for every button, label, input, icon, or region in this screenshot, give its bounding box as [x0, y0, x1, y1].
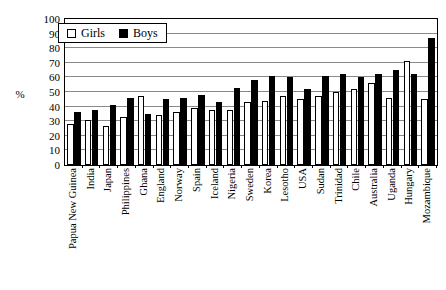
- y-tick-label: 0: [55, 160, 61, 171]
- bar-boys: [145, 114, 151, 165]
- legend-item-boys: Boys: [119, 26, 158, 41]
- y-tick-label: 20: [49, 130, 60, 141]
- x-tick-mark: [259, 165, 260, 168]
- legend-swatch-boys-icon: [119, 29, 128, 38]
- bar-girls: [173, 112, 179, 165]
- bar-boys: [234, 88, 240, 165]
- x-axis-label: Norway: [174, 168, 185, 202]
- x-axis-label: Uganda: [387, 168, 398, 201]
- bar-group: [224, 19, 242, 165]
- y-axis-tick-labels: 0102030405060708090100: [26, 12, 60, 172]
- bar-group: [278, 19, 296, 165]
- bar-group: [295, 19, 313, 165]
- bar-boys: [198, 95, 204, 165]
- x-axis-label: Papua New Guinea: [68, 168, 79, 249]
- bar-girls: [333, 92, 339, 165]
- bar-girls: [67, 124, 73, 165]
- bar-group: [260, 19, 278, 165]
- bar-boys: [216, 102, 222, 165]
- bar-girls: [262, 101, 268, 165]
- x-axis-label: Sudan: [316, 168, 327, 194]
- x-axis-label: Spain: [192, 168, 203, 192]
- x-tick-mark: [418, 165, 419, 168]
- x-tick-mark: [82, 165, 83, 168]
- bar-boys: [428, 38, 434, 165]
- x-tick-mark: [223, 165, 224, 168]
- bar-boys: [358, 77, 364, 165]
- bar-boys: [287, 77, 293, 165]
- bar-group: [384, 19, 402, 165]
- bar-girls: [404, 61, 410, 165]
- bar-group: [189, 19, 207, 165]
- x-tick-mark: [153, 165, 154, 168]
- bar-girls: [244, 102, 250, 165]
- x-tick-mark: [99, 165, 100, 168]
- bar-boys: [127, 98, 133, 165]
- legend-item-girls: Girls: [67, 26, 105, 41]
- bar-boys: [340, 74, 346, 165]
- x-tick-mark: [436, 165, 437, 168]
- y-tick-label: 60: [49, 72, 60, 83]
- y-tick-label: 40: [49, 101, 60, 112]
- x-tick-mark: [206, 165, 207, 168]
- y-tick-label: 10: [49, 145, 60, 156]
- bar-girls: [315, 96, 321, 165]
- x-tick-mark: [241, 165, 242, 168]
- x-axis-label: Nigeria: [227, 168, 238, 200]
- x-axis-label: Japan: [103, 168, 114, 192]
- bar-chart: % 0102030405060708090100 Girls Boys Papu…: [0, 0, 446, 290]
- x-axis-label: Chile: [351, 168, 362, 191]
- bar-boys: [393, 70, 399, 165]
- x-tick-mark: [117, 165, 118, 168]
- x-tick-mark: [383, 165, 384, 168]
- bar-girls: [227, 110, 233, 165]
- bar-boys: [74, 112, 80, 165]
- x-axis-label: Mozambique: [422, 168, 433, 223]
- x-axis-label: Australia: [369, 168, 380, 207]
- bar-girls: [421, 99, 427, 165]
- y-tick-label: 80: [49, 43, 60, 54]
- x-tick-mark: [135, 165, 136, 168]
- bar-group: [242, 19, 260, 165]
- x-axis-label: Lesotho: [280, 168, 291, 202]
- bar-boys: [322, 76, 328, 165]
- bar-group: [419, 19, 437, 165]
- bar-group: [348, 19, 366, 165]
- x-axis-label: USA: [298, 168, 309, 189]
- bar-boys: [110, 105, 116, 165]
- bar-girls: [297, 99, 303, 165]
- bar-group: [313, 19, 331, 165]
- x-tick-mark: [277, 165, 278, 168]
- x-tick-mark: [188, 165, 189, 168]
- bar-boys: [180, 98, 186, 165]
- x-axis-label: Iceland: [210, 168, 221, 199]
- legend-label-girls: Girls: [81, 26, 105, 41]
- x-tick-mark: [330, 165, 331, 168]
- bar-girls: [386, 98, 392, 165]
- bar-girls: [209, 110, 215, 165]
- y-tick-label: 50: [49, 87, 60, 98]
- bar-boys: [375, 74, 381, 165]
- bar-boys: [163, 99, 169, 165]
- bar-girls: [85, 120, 91, 165]
- x-axis-category-labels: Papua New GuineaIndiaJapanPhilippinesGha…: [64, 168, 438, 288]
- x-tick-mark: [170, 165, 171, 168]
- x-axis-label: Hungary: [404, 168, 415, 205]
- bar-girls: [280, 96, 286, 165]
- chart-legend: Girls Boys: [58, 23, 167, 43]
- bar-girls: [351, 89, 357, 165]
- x-axis-label: Philippines: [121, 168, 132, 215]
- bar-boys: [269, 76, 275, 165]
- bar-boys: [411, 74, 417, 165]
- x-axis-label: Trinidad: [334, 168, 345, 204]
- bar-group: [171, 19, 189, 165]
- bar-group: [207, 19, 225, 165]
- x-tick-mark: [401, 165, 402, 168]
- y-tick-label: 70: [49, 57, 60, 68]
- bar-girls: [138, 96, 144, 165]
- x-axis-label: England: [156, 168, 167, 203]
- bar-girls: [103, 126, 109, 165]
- x-tick-mark: [294, 165, 295, 168]
- bar-girls: [156, 115, 162, 165]
- bar-girls: [120, 117, 126, 165]
